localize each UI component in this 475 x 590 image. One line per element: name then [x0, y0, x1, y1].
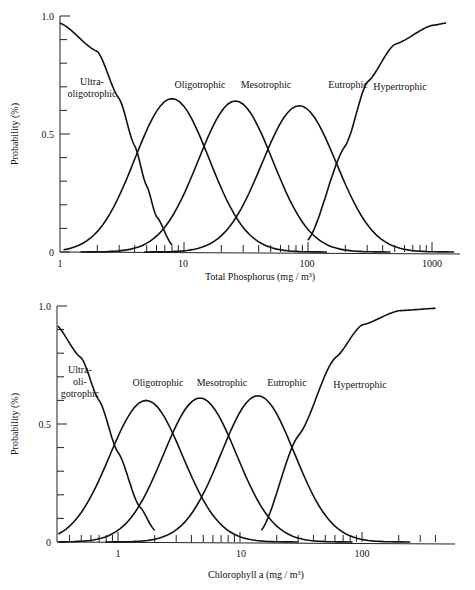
y-tick-label: 0 — [46, 537, 51, 548]
chart-panel-1: 00.51.01101001000Ultra-oligotrophicOligo… — [9, 11, 460, 283]
chart-panel-2: 00.51.0110100Ultra-oli-gotrophicOligotro… — [9, 301, 455, 581]
y-tick-label: 0.5 — [39, 419, 52, 430]
y-tick-label: 0 — [49, 247, 54, 258]
y-tick-label: 0.5 — [42, 129, 55, 140]
label-oligotrophic: Oligotrophic — [174, 79, 226, 90]
y-tick-label: 1.0 — [39, 301, 52, 312]
x-tick-label: 10 — [178, 258, 188, 269]
x-axis — [60, 252, 460, 254]
label-mesotrophic: Mesotrophic — [197, 377, 248, 388]
x-tick-label: 10 — [236, 548, 246, 559]
label-oligotrophic: Oligotrophic — [132, 377, 184, 388]
x-tick-label: 100 — [300, 258, 315, 269]
y-axis-title: Probability (%) — [9, 393, 21, 455]
x-axis-title: Total Phosphorus (mg / m³) — [205, 271, 315, 283]
x-tick-label: 1 — [58, 258, 63, 269]
curve-hypertrophic — [308, 23, 446, 240]
curve-ultra-oligotrophic — [58, 326, 155, 530]
label-hypertrophic: Hypertrophic — [373, 81, 427, 92]
y-tick-label: 1.0 — [42, 11, 55, 22]
x-tick-label: 1 — [116, 548, 121, 559]
curve-eutrophic — [105, 396, 410, 542]
label-eutrophic: Eutrophic — [328, 79, 368, 90]
label-ultra-oligotrophic: Ultra-oli-gotrophic — [61, 364, 100, 399]
label-eutrophic: Eutrophic — [267, 377, 307, 388]
x-tick-label: 100 — [355, 548, 370, 559]
y-axis-title: Probability (%) — [9, 103, 21, 165]
trophic-probability-figure: 00.51.01101001000Ultra-oligotrophicOligo… — [0, 0, 475, 590]
label-hypertrophic: Hypertrophic — [333, 379, 387, 390]
curve-ultra-oligotrophic — [60, 23, 172, 245]
label-mesotrophic: Mesotrophic — [241, 79, 292, 90]
x-tick-label: 1000 — [422, 258, 442, 269]
curve-hypertrophic — [262, 308, 436, 530]
x-axis-title: Chlorophyll a (mg / m³) — [208, 569, 304, 581]
curve-oligotrophic — [64, 99, 328, 252]
